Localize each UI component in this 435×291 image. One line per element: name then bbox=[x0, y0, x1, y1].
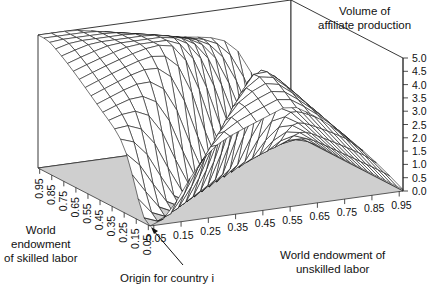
x-tick-label: 0.45 bbox=[255, 217, 276, 229]
z-tick-label: 3.0 bbox=[412, 105, 427, 117]
y-axis-label-line2: endowment bbox=[4, 237, 78, 251]
origin-annotation: Origin for country i bbox=[120, 271, 214, 285]
z-tick-label: 1.5 bbox=[412, 145, 427, 157]
x-tick-label: 0.85 bbox=[364, 202, 385, 214]
chart-container: 0.00.51.01.52.02.53.03.54.04.55.00.050.1… bbox=[0, 0, 435, 291]
x-tick-label: 0.15 bbox=[173, 229, 194, 241]
y-axis-label-line1: World bbox=[4, 223, 78, 237]
x-tick-label: 0.95 bbox=[391, 199, 412, 211]
z-tick-label: 4.5 bbox=[412, 65, 427, 77]
y-tick-label: 0.45 bbox=[93, 210, 105, 231]
x-tick-label: 0.55 bbox=[282, 214, 303, 226]
z-tick-label: 2.0 bbox=[412, 132, 427, 144]
z-axis-label: Volume of affiliate production bbox=[318, 4, 411, 32]
y-axis-label: World endowment of skilled labor bbox=[4, 223, 78, 265]
x-axis-label: World endowment of unskilled labor bbox=[280, 248, 385, 276]
x-tick-label: 0.25 bbox=[200, 225, 221, 237]
z-tick-label: 0.5 bbox=[412, 172, 427, 184]
x-tick-label: 0.35 bbox=[228, 221, 249, 233]
y-tick-label: 0.75 bbox=[57, 191, 69, 212]
y-tick-label: 0.65 bbox=[69, 197, 81, 218]
y-tick-label: 0.15 bbox=[129, 228, 141, 249]
z-axis-label-line2: affiliate production bbox=[318, 18, 411, 32]
z-tick-label: 0.0 bbox=[412, 185, 427, 197]
y-tick-label: 0.85 bbox=[45, 185, 57, 206]
z-tick-label: 4.0 bbox=[412, 79, 427, 91]
y-axis-label-line3: of skilled labor bbox=[4, 251, 78, 265]
y-tick-label: 0.95 bbox=[33, 178, 45, 199]
z-tick-label: 5.0 bbox=[412, 52, 427, 64]
y-tick-label: 0.35 bbox=[105, 216, 117, 237]
z-tick-label: 1.0 bbox=[412, 158, 427, 170]
x-tick-label: 0.65 bbox=[309, 210, 330, 222]
y-tick-label: 0.25 bbox=[117, 222, 129, 243]
z-tick-label: 2.5 bbox=[412, 119, 427, 131]
x-axis-label-line2: unskilled labor bbox=[280, 262, 385, 276]
x-axis-label-line1: World endowment of bbox=[280, 248, 385, 262]
x-tick-label: 0.75 bbox=[337, 206, 358, 218]
z-tick-label: 3.5 bbox=[412, 92, 427, 104]
y-tick-label: 0.05 bbox=[141, 235, 153, 256]
y-tick-label: 0.55 bbox=[81, 203, 93, 224]
z-axis-label-line1: Volume of bbox=[318, 4, 411, 18]
